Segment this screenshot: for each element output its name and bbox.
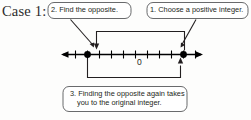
callout-2-leader bbox=[71, 20, 95, 48]
positive-point[interactable] bbox=[180, 51, 187, 58]
callout-3-label: 3. Finding the opposite again takes you … bbox=[70, 90, 185, 107]
lower-bracket bbox=[88, 58, 184, 78]
upper-bracket bbox=[94, 32, 185, 51]
callout-3-line1: 3. Finding the opposite again takes bbox=[70, 89, 185, 98]
callout-1-leader bbox=[181, 20, 196, 48]
callout-2-label: 2. Find the opposite. bbox=[51, 6, 118, 15]
axis-arrow-right bbox=[196, 51, 204, 58]
figure-container: Case 1: bbox=[0, 0, 251, 120]
opposite-point[interactable] bbox=[84, 51, 91, 58]
origin-label: 0 bbox=[137, 57, 142, 67]
callout-1-label: 1. Choose a positive integer. bbox=[150, 6, 243, 15]
axis-arrow-left bbox=[61, 51, 69, 58]
callout-3-line2: you to the original integer. bbox=[70, 99, 185, 108]
